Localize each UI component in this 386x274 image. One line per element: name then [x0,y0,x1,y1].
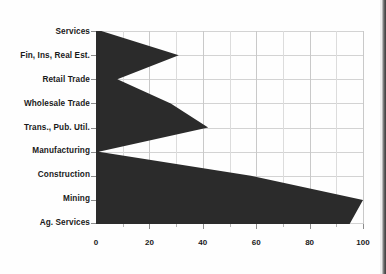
category-label: Retail Trade [42,75,90,84]
x-tick [256,224,257,229]
category-label: Manufacturing [32,146,90,155]
x-tick-minor [123,224,124,227]
x-axis-tick-label: 80 [295,238,325,247]
x-tick [310,224,311,229]
category-label: Construction [38,170,90,179]
chart-container: Services Fin, Ins, Real Est. Retail Trad… [0,0,386,274]
category-label: Wholesale Trade [24,99,90,108]
x-tick [149,224,150,229]
x-tick-minor [336,224,337,227]
x-axis-tick-label: 0 [81,238,111,247]
x-tick [203,224,204,229]
category-axis-labels: Services Fin, Ins, Real Est. Retail Trad… [0,31,90,224]
x-tick-minor [176,224,177,227]
category-label: Fin, Ins, Real Est. [20,51,90,60]
gridline-vertical [363,31,364,224]
category-label: Trans., Pub. Util. [24,123,90,132]
x-axis-tick-label: 20 [134,238,164,247]
plot-area [96,31,363,224]
x-axis-tick-label: 60 [241,238,271,247]
x-axis-tick-label: 100 [348,238,378,247]
area-series [96,31,363,224]
category-label: Services [56,27,91,36]
x-tick-minor [230,224,231,227]
category-label: Ag. Services [40,218,90,227]
x-tick-minor [283,224,284,227]
scan-edge-shadow [382,0,386,274]
x-axis-tick-label: 40 [188,238,218,247]
category-label: Mining [63,194,90,203]
x-tick [363,224,364,229]
area-polygon [96,31,363,224]
